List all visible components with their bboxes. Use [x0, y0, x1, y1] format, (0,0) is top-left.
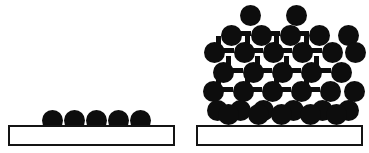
- atom: [248, 104, 269, 125]
- atom: [233, 81, 254, 102]
- growth-mode-figure: [0, 0, 369, 153]
- atom: [272, 62, 293, 83]
- atom: [292, 42, 313, 63]
- panel-layer-growth: [0, 0, 185, 153]
- atom: [322, 42, 343, 63]
- atom: [344, 81, 365, 102]
- atom: [320, 81, 341, 102]
- atom: [204, 42, 225, 63]
- atom: [301, 62, 322, 83]
- atom: [286, 5, 307, 26]
- atom: [243, 62, 264, 83]
- atom: [326, 104, 347, 125]
- substrate-bar: [8, 125, 175, 146]
- atom: [291, 81, 312, 102]
- atom: [331, 62, 352, 83]
- atom: [263, 42, 284, 63]
- atom: [203, 81, 224, 102]
- atom: [213, 62, 234, 83]
- atom: [234, 42, 255, 63]
- atom: [345, 42, 366, 63]
- atom: [300, 104, 321, 125]
- atom: [271, 104, 292, 125]
- substrate-bar: [196, 125, 363, 146]
- atom: [262, 81, 283, 102]
- panel-island-growth: [185, 0, 369, 153]
- atom: [240, 5, 261, 26]
- atom: [218, 104, 239, 125]
